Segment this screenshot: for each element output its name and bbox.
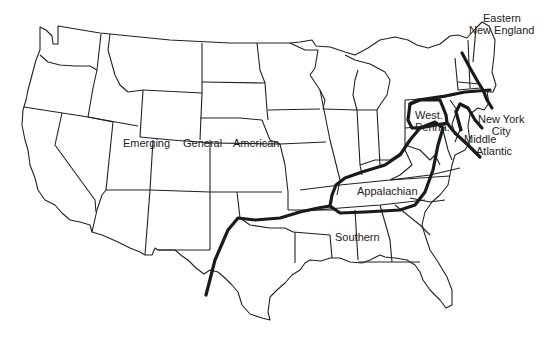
label-nyc-line-1: New York	[478, 113, 524, 125]
label-west-penna-line-1: West.	[415, 109, 450, 121]
label-middle-atlantic-line-1: Middle	[462, 133, 512, 145]
label-american: American	[233, 137, 279, 149]
label-emerging: Emerging	[123, 137, 170, 149]
label-eastern-line-1: Eastern	[481, 12, 534, 24]
label-middle-atlantic: Middle Atlantic	[462, 133, 512, 157]
label-appalachian: Appalachian	[357, 185, 418, 197]
label-middle-atlantic-line-2: Atlantic	[462, 145, 512, 157]
label-west-penna-line-2: Penna.	[415, 121, 450, 133]
label-eastern-new-england: Eastern New England	[481, 12, 534, 36]
label-general: General	[183, 137, 222, 149]
map-canvas	[0, 0, 546, 340]
label-southern: Southern	[335, 231, 380, 243]
us-outline	[22, 22, 496, 320]
label-eastern-line-2: New England	[469, 24, 534, 36]
label-west-penna: West. Penna.	[415, 109, 450, 133]
us-dialect-map: Eastern New England West. Penna. New Yor…	[0, 0, 546, 340]
